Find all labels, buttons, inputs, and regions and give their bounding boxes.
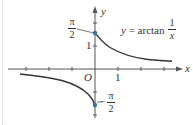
y-axis-label: y xyxy=(101,6,106,17)
x-axis-label: x xyxy=(185,63,190,74)
neg-pi-half-label: π 2 xyxy=(107,91,115,114)
equation-lhs: y = arctan xyxy=(121,25,164,36)
pi-half-label: π 2 xyxy=(68,17,76,40)
point-pi-half xyxy=(93,31,97,35)
x-tick-label-1: 1 xyxy=(115,72,121,83)
origin-label: O xyxy=(84,72,92,83)
point-neg-pi-half xyxy=(93,103,97,107)
curve-positive-branch xyxy=(95,33,172,61)
neg-sign: − xyxy=(100,97,106,107)
y-axis-arrow-icon xyxy=(93,6,98,13)
x-axis-arrow-icon xyxy=(176,67,183,72)
equation-fraction: 1 x xyxy=(168,18,176,41)
plot-area xyxy=(0,0,193,125)
pi-half-leader xyxy=(77,29,94,33)
y-tick-label-1: 1 xyxy=(86,40,92,51)
